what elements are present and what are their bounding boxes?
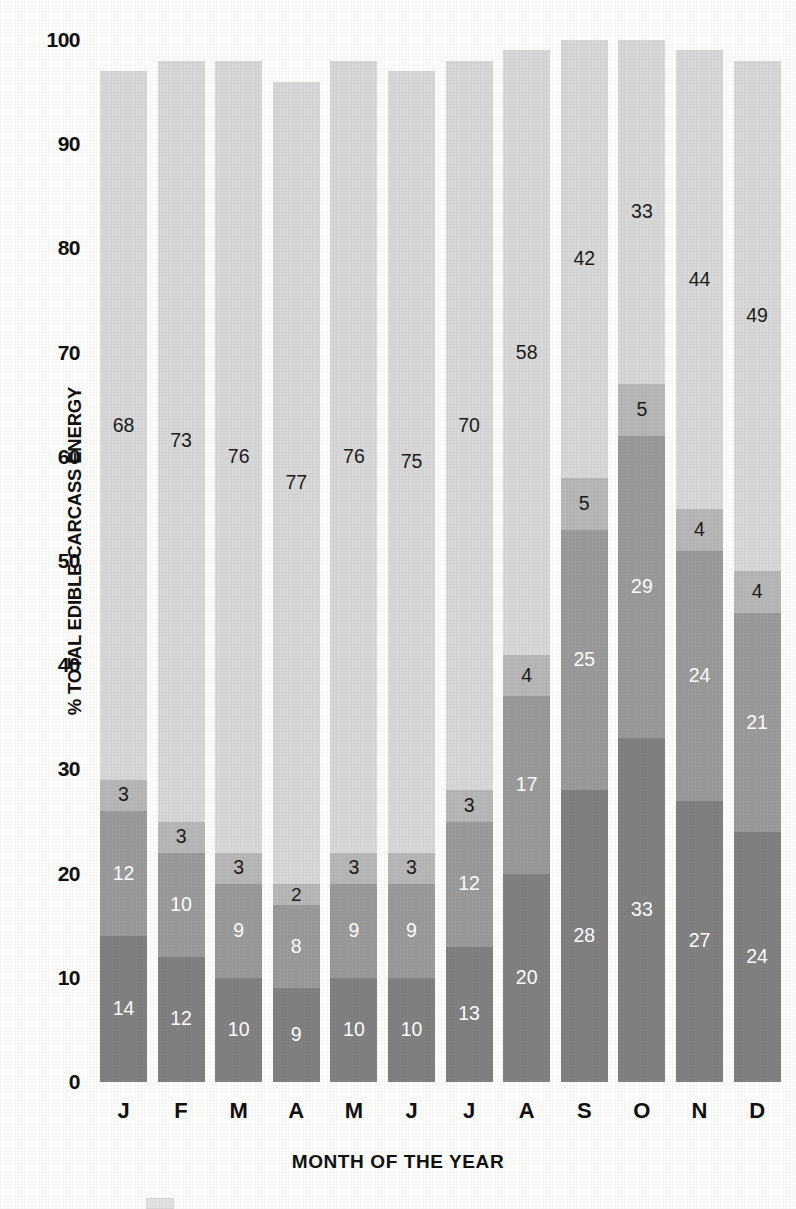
bar-segment-segment-3: 4	[676, 509, 723, 551]
bar-segment-segment-1: 27	[676, 801, 723, 1082]
bar-december[interactable]: 4942124	[734, 61, 781, 1082]
segment-value-label: 4	[503, 666, 550, 686]
x-axis-tick-september: S	[561, 1098, 608, 1124]
segment-value-label: 2	[273, 885, 320, 904]
bar-august[interactable]: 5841720	[503, 50, 550, 1082]
segment-value-label: 20	[503, 968, 550, 988]
x-axis-tick-january: J	[100, 1098, 147, 1124]
bar-segment-segment-3: 3	[330, 853, 377, 884]
bar-february[interactable]: 7331012	[158, 61, 205, 1082]
bar-segment-segment-3: 3	[100, 780, 147, 811]
segment-value-label: 29	[618, 577, 665, 597]
bar-segment-segment-2: 29	[618, 436, 665, 738]
x-axis-tick-august: A	[503, 1098, 550, 1124]
segment-value-label: 42	[561, 249, 608, 269]
y-axis-tick-30: 30	[6, 757, 80, 781]
bar-segment-segment-2: 9	[388, 884, 435, 978]
x-axis-tick-july: J	[446, 1098, 493, 1124]
x-axis-tick-february: F	[158, 1098, 205, 1124]
bar-segment-segment-1: 33	[618, 738, 665, 1082]
segment-value-label: 49	[734, 306, 781, 326]
y-axis-tick-70: 70	[6, 341, 80, 365]
segment-value-label: 73	[158, 431, 205, 451]
bar-october[interactable]: 3352933	[618, 40, 665, 1082]
bar-january[interactable]: 6831214	[100, 71, 147, 1082]
x-axis-tick-october: O	[618, 1098, 665, 1124]
segment-value-label: 12	[446, 874, 493, 894]
segment-value-label: 58	[503, 343, 550, 363]
bar-segment-segment-4: 42	[561, 40, 608, 478]
segment-value-label: 4	[734, 583, 781, 603]
bar-segment-segment-1: 10	[215, 978, 262, 1082]
segment-value-label: 3	[330, 859, 377, 879]
bar-july[interactable]: 7031213	[446, 61, 493, 1082]
bar-april[interactable]: 77289	[273, 82, 320, 1082]
y-axis-tick-group: 0102030405060708090100	[0, 0, 80, 1209]
segment-value-label: 9	[388, 921, 435, 941]
segment-value-label: 33	[618, 900, 665, 920]
legend-swatch	[146, 1198, 174, 1209]
segment-value-label: 17	[503, 775, 550, 795]
bar-segment-segment-2: 21	[734, 613, 781, 832]
y-axis-tick-0: 0	[6, 1070, 80, 1094]
bar-segment-segment-3: 4	[734, 571, 781, 613]
segment-value-label: 3	[388, 859, 435, 879]
bar-segment-segment-4: 76	[330, 61, 377, 853]
bar-june[interactable]: 753910	[388, 71, 435, 1082]
bar-may[interactable]: 763910	[330, 61, 377, 1082]
bar-march[interactable]: 763910	[215, 61, 262, 1082]
segment-value-label: 12	[100, 864, 147, 884]
bar-segment-segment-1: 10	[330, 978, 377, 1082]
bar-segment-segment-2: 25	[561, 530, 608, 791]
bar-segment-segment-4: 44	[676, 50, 723, 508]
segment-value-label: 25	[561, 650, 608, 670]
bar-segment-segment-2: 17	[503, 696, 550, 873]
segment-value-label: 33	[618, 202, 665, 222]
segment-value-label: 5	[561, 494, 608, 514]
segment-value-label: 21	[734, 713, 781, 733]
y-axis-tick-10: 10	[6, 966, 80, 990]
segment-value-label: 4	[676, 520, 723, 540]
y-axis-tick-20: 20	[6, 862, 80, 886]
segment-value-label: 9	[273, 1025, 320, 1045]
segment-value-label: 9	[215, 921, 262, 941]
plot-area: 6831214J7331012F763910M77289A763910M7539…	[88, 0, 788, 1209]
bar-segment-segment-1: 28	[561, 790, 608, 1082]
bar-segment-segment-2: 12	[100, 811, 147, 936]
bar-segment-segment-4: 33	[618, 40, 665, 384]
segment-value-label: 76	[330, 447, 377, 467]
segment-value-label: 76	[215, 447, 262, 467]
bar-november[interactable]: 4442427	[676, 50, 723, 1082]
y-axis-tick-40: 40	[6, 653, 80, 677]
y-axis-tick-80: 80	[6, 236, 80, 260]
segment-value-label: 24	[734, 947, 781, 967]
bar-segment-segment-3: 5	[618, 384, 665, 436]
bar-segment-segment-3: 3	[215, 853, 262, 884]
bar-september[interactable]: 4252528	[561, 40, 608, 1082]
x-axis-tick-june: J	[388, 1098, 435, 1124]
segment-value-label: 3	[215, 859, 262, 879]
bar-segment-segment-4: 77	[273, 82, 320, 884]
bar-segment-segment-1: 24	[734, 832, 781, 1082]
segment-value-label: 28	[561, 926, 608, 946]
segment-value-label: 10	[215, 1020, 262, 1040]
y-axis-tick-100: 100	[6, 28, 80, 52]
segment-value-label: 5	[618, 400, 665, 420]
bar-segment-segment-1: 13	[446, 947, 493, 1082]
segment-value-label: 75	[388, 452, 435, 472]
bar-segment-segment-2: 10	[158, 853, 205, 957]
bar-segment-segment-2: 9	[215, 884, 262, 978]
segment-value-label: 70	[446, 416, 493, 436]
segment-value-label: 13	[446, 1005, 493, 1025]
segment-value-label: 12	[158, 1010, 205, 1030]
x-axis-tick-may: M	[330, 1098, 377, 1124]
bar-segment-segment-3: 3	[158, 822, 205, 853]
segment-value-label: 27	[676, 932, 723, 952]
bar-segment-segment-2: 12	[446, 822, 493, 947]
x-axis-title: MONTH OF THE YEAR	[0, 1151, 796, 1173]
bar-segment-segment-4: 75	[388, 71, 435, 853]
y-axis-tick-50: 50	[6, 549, 80, 573]
segment-value-label: 3	[446, 796, 493, 816]
segment-value-label: 44	[676, 270, 723, 290]
x-axis-tick-april: A	[273, 1098, 320, 1124]
